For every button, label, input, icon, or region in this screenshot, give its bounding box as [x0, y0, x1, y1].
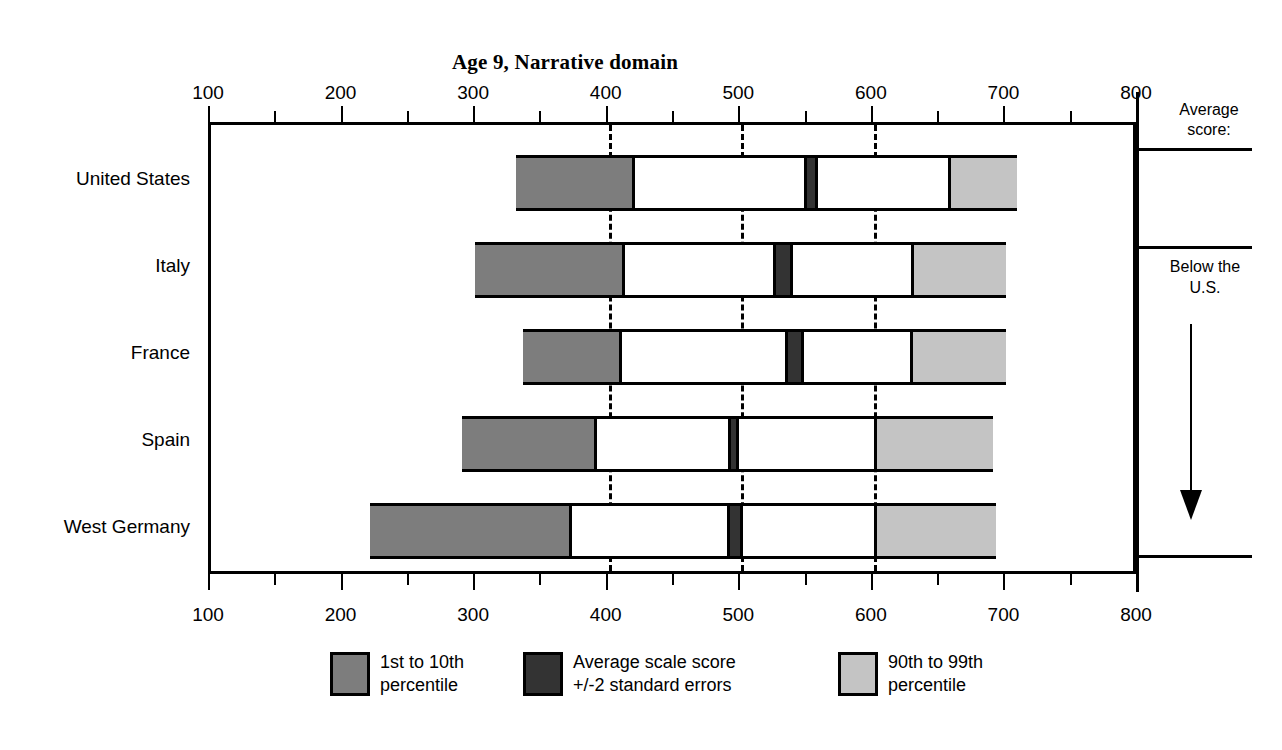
- bar-row: [211, 487, 1133, 577]
- legend: 1st to 10thpercentileAverage scale score…: [0, 645, 1282, 715]
- bar-west-germany[interactable]: [370, 503, 996, 559]
- axis-tick-bottom: [738, 574, 740, 590]
- bar-france[interactable]: [523, 329, 1007, 385]
- axis-tick-bottom: [1070, 574, 1072, 585]
- legend-label-line2: percentile: [888, 674, 983, 697]
- axis-tick-bottom: [1003, 574, 1005, 590]
- axis-tick-bottom: [473, 574, 475, 590]
- segment-average-scale-score: [728, 419, 739, 469]
- category-label-west-germany: West Germany: [64, 516, 190, 538]
- axis-tick-top: [1136, 106, 1138, 122]
- axis-tick-label: 800: [1120, 604, 1152, 626]
- segment-1st-to-10th-percentile: [475, 245, 625, 295]
- axis-tick-bottom: [341, 574, 343, 590]
- axis-tick-label: 200: [325, 604, 357, 626]
- axis-tick-top: [407, 111, 409, 122]
- axis-tick-bottom: [407, 574, 409, 585]
- right-annotation-panel: Average score: Below the U.S.: [1136, 92, 1282, 592]
- below-us-note-line1: Below the: [1140, 256, 1270, 277]
- legend-label: 90th to 99thpercentile: [888, 651, 983, 697]
- axis-tick-top: [341, 106, 343, 122]
- bar-row: [211, 400, 1133, 490]
- below-us-note-line2: U.S.: [1140, 277, 1270, 298]
- segment-1st-to-10th-percentile: [370, 506, 572, 556]
- axis-tick-bottom: [606, 574, 608, 590]
- axis-tick-top: [1003, 106, 1005, 122]
- axis-tick-label: 100: [192, 604, 224, 626]
- segment-90th-to-99th-percentile: [874, 419, 993, 469]
- segment-90th-to-99th-percentile: [948, 158, 1017, 208]
- axis-tick-label: 200: [325, 82, 357, 104]
- segment-1st-to-10th-percentile: [462, 419, 597, 469]
- axis-tick-bottom: [672, 574, 674, 585]
- segment-90th-to-99th-percentile: [874, 506, 996, 556]
- axis-tick-label: 100: [192, 82, 224, 104]
- category-label-spain: Spain: [141, 429, 190, 451]
- category-label-united-states: United States: [76, 168, 190, 190]
- average-score-heading-line2: score:: [1144, 120, 1274, 140]
- legend-item[interactable]: 90th to 99thpercentile: [838, 651, 983, 697]
- panel-left-rail: [1136, 92, 1139, 592]
- axis-tick-top: [274, 111, 276, 122]
- segment-average-scale-score: [804, 158, 819, 208]
- axis-tick-bottom: [937, 574, 939, 585]
- chart-root: Age 9, Narrative domain 1002003004005006…: [0, 0, 1282, 750]
- panel-separator-middle: [1136, 246, 1252, 249]
- average-score-heading: Average score:: [1144, 100, 1274, 140]
- legend-label: 1st to 10thpercentile: [380, 651, 464, 697]
- legend-swatch-icon: [523, 652, 563, 696]
- legend-swatch-icon: [838, 652, 878, 696]
- panel-separator-bottom: [1136, 555, 1252, 558]
- panel-separator-top: [1136, 148, 1252, 151]
- axis-tick-top: [871, 106, 873, 122]
- segment-average-scale-score: [785, 332, 804, 382]
- legend-item[interactable]: 1st to 10thpercentile: [330, 651, 464, 697]
- axis-tick-label: 300: [457, 604, 489, 626]
- legend-item[interactable]: Average scale score+/-2 standard errors: [523, 651, 736, 697]
- average-score-heading-line1: Average: [1144, 100, 1274, 120]
- down-arrow-icon: [1180, 490, 1202, 520]
- segment-1st-to-10th-percentile: [516, 158, 635, 208]
- category-label-france: France: [131, 342, 190, 364]
- segment-average-scale-score: [773, 245, 793, 295]
- axis-tick-bottom: [208, 574, 210, 590]
- category-label-italy: Italy: [155, 255, 190, 277]
- axis-tick-bottom: [871, 574, 873, 590]
- legend-label-line1: 90th to 99th: [888, 651, 983, 674]
- axis-tick-bottom: [805, 574, 807, 585]
- axis-tick-bottom: [539, 574, 541, 585]
- plot-area: [208, 122, 1136, 574]
- legend-swatch-icon: [330, 652, 370, 696]
- bar-spain[interactable]: [462, 416, 994, 472]
- axis-tick-label: 700: [988, 82, 1020, 104]
- down-arrow-shaft: [1190, 324, 1192, 492]
- axis-tick-top: [937, 111, 939, 122]
- axis-tick-bottom: [1136, 574, 1138, 590]
- chart-title: Age 9, Narrative domain: [0, 50, 1130, 75]
- axis-tick-top: [672, 111, 674, 122]
- bar-united-states[interactable]: [516, 155, 1017, 211]
- axis-tick-top: [473, 106, 475, 122]
- legend-label-line1: 1st to 10th: [380, 651, 464, 674]
- segment-average-scale-score: [727, 506, 743, 556]
- axis-tick-top: [738, 106, 740, 122]
- x-axis-bottom: 100200300400500600700800: [0, 604, 1282, 626]
- axis-tick-label: 400: [590, 604, 622, 626]
- axis-tick-top: [805, 111, 807, 122]
- bar-row: [211, 226, 1133, 316]
- axis-tick-label: 300: [457, 82, 489, 104]
- segment-90th-to-99th-percentile: [910, 332, 1007, 382]
- axis-tick-top: [539, 111, 541, 122]
- bar-row: [211, 139, 1133, 229]
- axis-tick-label: 600: [855, 82, 887, 104]
- axis-tick-bottom: [274, 574, 276, 585]
- segment-90th-to-99th-percentile: [911, 245, 1006, 295]
- axis-tick-label: 400: [590, 82, 622, 104]
- legend-label: Average scale score+/-2 standard errors: [573, 651, 736, 697]
- legend-label-line2: +/-2 standard errors: [573, 674, 736, 697]
- segment-1st-to-10th-percentile: [523, 332, 622, 382]
- bar-italy[interactable]: [475, 242, 1007, 298]
- axis-tick-top: [606, 106, 608, 122]
- legend-label-line2: percentile: [380, 674, 464, 697]
- x-axis-top: 100200300400500600700800: [0, 82, 1282, 104]
